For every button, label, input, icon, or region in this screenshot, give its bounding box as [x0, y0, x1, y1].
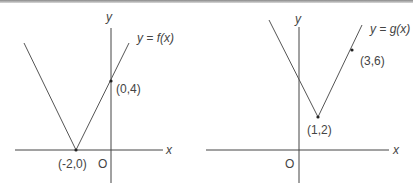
x-axis-label-g: x [392, 143, 400, 157]
graphs-canvas: x y O (-2,0) (0,4) y = f(x) x y O (1,2) … [0, 0, 413, 195]
curve-f [24, 43, 129, 150]
function-label-f: y = f(x) [136, 31, 174, 45]
curve-g [269, 20, 362, 117]
point-vertex-f [74, 148, 77, 151]
y-axis-label-g: y [294, 12, 302, 26]
origin-label-f: O [98, 157, 107, 171]
point-yintercept-f [109, 79, 112, 82]
graph-f: x y O (-2,0) (0,4) y = f(x) [15, 10, 174, 183]
function-label-g: y = g(x) [369, 22, 410, 36]
x-axis-label-f: x [165, 143, 173, 157]
origin-label-g: O [285, 157, 294, 171]
point-vertex-g [316, 115, 319, 118]
y-axis-label-f: y [105, 10, 113, 24]
point-label-yintercept-f: (0,4) [116, 82, 141, 96]
point-marked-g [350, 48, 353, 51]
point-label-marked-g: (3,6) [360, 54, 385, 68]
point-label-vertex-f: (-2,0) [58, 157, 87, 171]
graph-g: x y O (1,2) (3,6) y = g(x) [206, 12, 410, 183]
point-label-vertex-g: (1,2) [307, 123, 332, 137]
